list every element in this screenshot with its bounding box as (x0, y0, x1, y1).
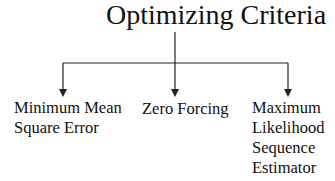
child-node-zero-forcing: Zero Forcing (142, 99, 229, 119)
node-label-line: Likelihood (252, 118, 324, 138)
arrow-down-icon (59, 89, 67, 97)
node-label-line: Zero Forcing (142, 99, 229, 119)
node-label-line: Estimator (252, 158, 324, 178)
child-node-mlse: Maximum Likelihood Sequence Estimator (252, 98, 324, 178)
node-label-line: Minimum Mean (14, 98, 122, 118)
child-node-mmse: Minimum Mean Square Error (14, 98, 122, 138)
optimizing-criteria-tree-diagram: Optimizing Criteria Minimum Mean Square … (0, 0, 335, 181)
node-label-line: Square Error (14, 118, 122, 138)
node-label-line: Maximum (252, 98, 324, 118)
node-label-line: Sequence (252, 138, 324, 158)
arrow-down-icon (171, 89, 179, 97)
arrow-down-icon (284, 89, 292, 97)
